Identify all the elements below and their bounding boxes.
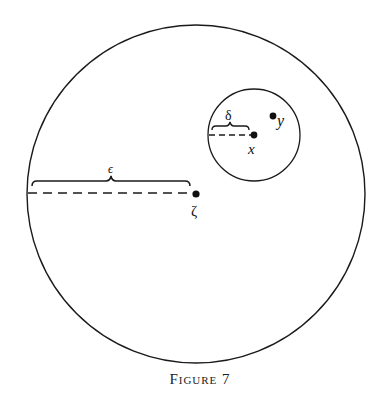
y-point xyxy=(270,113,277,120)
zeta-point xyxy=(192,190,199,197)
x-label: x xyxy=(247,141,255,157)
zeta-label: ζ xyxy=(191,203,197,219)
figure-caption: Figure 7 xyxy=(0,371,380,388)
delta-brace xyxy=(212,122,249,130)
epsilon-brace xyxy=(32,176,190,186)
epsilon-label: ϵ xyxy=(108,162,114,176)
y-label: y xyxy=(275,112,285,130)
figure-canvas: ϵ ζ δ x y xyxy=(0,0,380,402)
x-point xyxy=(251,132,258,139)
delta-label: δ xyxy=(225,108,232,123)
